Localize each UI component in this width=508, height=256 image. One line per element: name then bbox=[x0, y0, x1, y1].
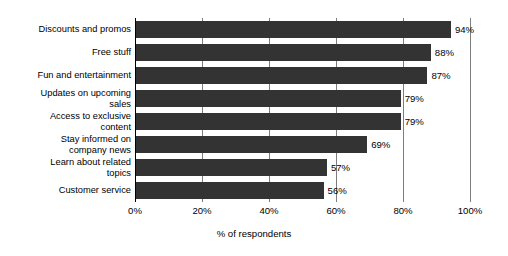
category-label: Free stuff bbox=[6, 41, 131, 64]
bar-value-label: 79% bbox=[401, 110, 424, 133]
bar-value-label: 87% bbox=[427, 64, 450, 87]
bar bbox=[136, 90, 401, 107]
bar-row: Free stuff88% bbox=[0, 41, 508, 64]
bar-row: Stay informed on company news69% bbox=[0, 133, 508, 156]
bar-value-label: 69% bbox=[367, 133, 390, 156]
bar-row: Discounts and promos94% bbox=[0, 18, 508, 41]
bar bbox=[136, 159, 327, 176]
category-label: Discounts and promos bbox=[6, 18, 131, 41]
bar-value-label: 94% bbox=[451, 18, 474, 41]
x-tick-label: 100% bbox=[458, 205, 483, 216]
bar-row: Updates on upcoming sales79% bbox=[0, 87, 508, 110]
bar bbox=[136, 67, 427, 84]
category-label: Customer service bbox=[6, 179, 131, 202]
x-axis-tick-labels: 0%20%40%60%80%100% bbox=[0, 202, 508, 218]
bar-row: Fun and entertainment87% bbox=[0, 64, 508, 87]
bar bbox=[136, 136, 367, 153]
x-axis-title: % of respondents bbox=[0, 228, 508, 239]
category-label: Learn about related topics bbox=[6, 156, 131, 179]
bar bbox=[136, 182, 324, 199]
bar-row: Access to exclusive content79% bbox=[0, 110, 508, 133]
x-tick-label: 80% bbox=[393, 205, 412, 216]
bar bbox=[136, 113, 401, 130]
bar bbox=[136, 44, 431, 61]
x-tick-label: 60% bbox=[326, 205, 345, 216]
bar-chart: Discounts and promos94%Free stuff88%Fun … bbox=[0, 0, 508, 256]
x-tick-label: 40% bbox=[259, 205, 278, 216]
bar-value-label: 88% bbox=[431, 41, 454, 64]
x-tick-label: 20% bbox=[192, 205, 211, 216]
bar-row: Learn about related topics57% bbox=[0, 156, 508, 179]
category-label: Updates on upcoming sales bbox=[6, 87, 131, 110]
category-label: Fun and entertainment bbox=[6, 64, 131, 87]
bar-value-label: 79% bbox=[401, 87, 424, 110]
category-label: Access to exclusive content bbox=[6, 110, 131, 133]
bar-row: Customer service56% bbox=[0, 179, 508, 202]
x-tick-label: 0% bbox=[128, 205, 142, 216]
bar-rows: Discounts and promos94%Free stuff88%Fun … bbox=[0, 18, 508, 202]
category-label: Stay informed on company news bbox=[6, 133, 131, 156]
bar bbox=[136, 21, 451, 38]
bar-value-label: 57% bbox=[327, 156, 350, 179]
bar-value-label: 56% bbox=[324, 179, 347, 202]
